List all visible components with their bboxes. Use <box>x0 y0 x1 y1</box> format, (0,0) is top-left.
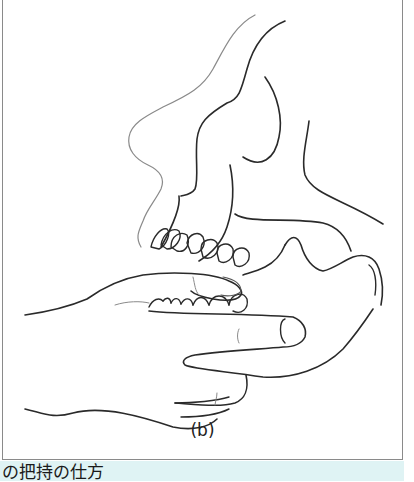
finger-tip-mark <box>215 393 217 405</box>
index-finger-line <box>149 309 373 377</box>
facial-profile-line <box>129 15 255 247</box>
knuckle-crease <box>238 329 240 343</box>
lower-teeth <box>149 294 247 312</box>
zygoma-line <box>304 121 383 224</box>
maxilla-line <box>199 165 233 261</box>
mandible-line <box>285 238 382 306</box>
maxilla-lower-line <box>161 196 179 247</box>
palate-line <box>235 214 351 251</box>
coronoid-line <box>243 245 285 275</box>
orbit-line <box>243 77 280 162</box>
palm-line <box>115 302 149 305</box>
thumb-line <box>25 273 242 315</box>
skull-frontal-line <box>181 21 285 196</box>
finger-crease-1 <box>175 397 229 403</box>
figure-sublabel: (b) <box>3 420 402 440</box>
figure-frame: (b) <box>2 0 403 460</box>
figure-caption: の把持の仕方 <box>2 462 104 482</box>
condyle-line <box>369 265 376 295</box>
finger-crease-2 <box>181 409 229 417</box>
fingernail-line <box>281 319 286 343</box>
skull-hand-illustration <box>3 0 404 461</box>
